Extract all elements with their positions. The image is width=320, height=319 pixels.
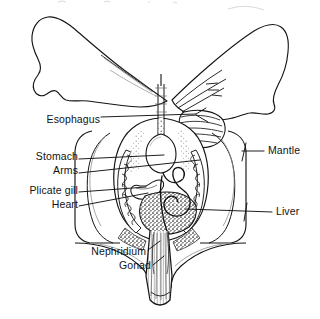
label-arms: Arms [0, 165, 78, 176]
label-esophagus: Esophagus [0, 114, 100, 125]
label-gonad: Gonad [18, 260, 151, 271]
label-liver: Liver [276, 206, 299, 217]
label-plicate-gill: Plicate gill [0, 185, 78, 196]
anatomy-figure: Esophagus Stomach Arms Plicate gill Hear… [0, 0, 320, 319]
label-nephridium: Nephridium [18, 246, 146, 257]
label-heart: Heart [0, 199, 78, 210]
label-mantle: Mantle [268, 145, 300, 156]
label-stomach: Stomach [0, 151, 78, 162]
stomach-sac [146, 134, 176, 173]
